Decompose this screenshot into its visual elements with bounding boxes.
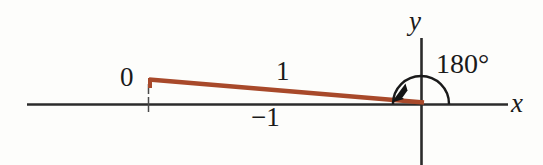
label-negative-one: −1 xyxy=(251,104,280,131)
label-y-axis: y xyxy=(409,8,421,35)
label-one: 1 xyxy=(276,58,290,85)
label-zero: 0 xyxy=(120,64,134,91)
label-angle-measure: 180° xyxy=(436,50,489,78)
angle-diagram-figure: 0 1 −1 180° y x xyxy=(0,0,543,165)
label-x-axis: x xyxy=(511,90,523,117)
diagram-canvas xyxy=(0,0,543,165)
